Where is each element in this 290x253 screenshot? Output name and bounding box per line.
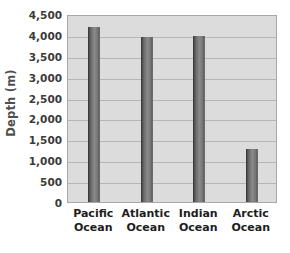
bar[interactable] xyxy=(88,27,100,202)
x-axis-tick-label-line1: Indian xyxy=(172,207,225,221)
x-axis-tick-label-line1: Pacific xyxy=(67,207,120,221)
bar[interactable] xyxy=(141,37,153,202)
x-axis-tick-label-line2: Ocean xyxy=(120,221,173,235)
y-axis-title-text: Depth (m) xyxy=(4,69,18,137)
bars xyxy=(68,16,276,202)
y-axis-tick-label: 3,000 xyxy=(29,72,62,84)
bar-slot xyxy=(68,16,121,202)
x-axis-tick-label: IndianOcean xyxy=(172,207,225,234)
y-axis-tick-labels: 4,5004,0003,5003,0002,5002,0001,5001,000… xyxy=(20,15,65,203)
y-axis-tick-label: 4,000 xyxy=(29,30,62,42)
plot-area xyxy=(67,15,277,203)
y-axis-tick-label: 2,000 xyxy=(29,113,62,125)
y-axis-tick-label: 3,500 xyxy=(29,51,62,63)
x-axis-tick-label-line1: Atlantic xyxy=(120,207,173,221)
bar-chart: Depth (m) 4,5004,0003,5003,0002,5002,000… xyxy=(0,0,290,253)
y-axis-tick-label: 0 xyxy=(55,197,62,209)
x-axis-tick-label-line2: Ocean xyxy=(225,221,278,235)
y-axis-tick-label: 2,500 xyxy=(29,93,62,105)
bar[interactable] xyxy=(193,36,205,202)
y-axis-tick-label: 4,500 xyxy=(29,9,62,21)
x-axis-tick-label: ArcticOcean xyxy=(225,207,278,234)
y-axis-tick-label: 500 xyxy=(40,176,62,188)
y-axis-title: Depth (m) xyxy=(0,0,22,205)
x-axis-tick-label-line1: Arctic xyxy=(225,207,278,221)
x-axis-tick-label: AtlanticOcean xyxy=(120,207,173,234)
x-axis-tick-label-line2: Ocean xyxy=(172,221,225,235)
y-axis-tick-label: 1,000 xyxy=(29,155,62,167)
x-axis-tick-label-line2: Ocean xyxy=(67,221,120,235)
x-axis-tick-label: PacificOcean xyxy=(67,207,120,234)
x-axis-tick-labels: PacificOceanAtlanticOceanIndianOceanArct… xyxy=(67,207,277,249)
bar[interactable] xyxy=(246,149,258,202)
bar-slot xyxy=(173,16,226,202)
bar-slot xyxy=(121,16,174,202)
bar-slot xyxy=(226,16,278,202)
y-axis-tick-label: 1,500 xyxy=(29,134,62,146)
